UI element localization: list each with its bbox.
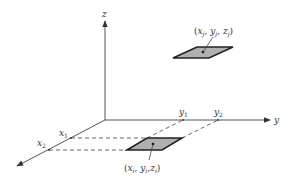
tick-label-x1: x1: [59, 128, 68, 139]
tick-label-y2: y2: [213, 107, 223, 118]
coordinate-diagram: z y x1 x2 y1 y2 (xj, yj, zj) (xi, yi,zi): [0, 0, 291, 186]
plane-i: [127, 138, 182, 150]
tick-label-x2: x2: [37, 138, 46, 149]
point-label-j: (xj, yj, zj): [194, 26, 233, 38]
z-axis-label: z: [101, 9, 107, 19]
x-axis: [17, 120, 105, 166]
tick-label-y1: y1: [178, 107, 188, 118]
point-label-i: (xi, yi,zi): [124, 163, 160, 174]
y-axis-label: y: [273, 115, 280, 125]
